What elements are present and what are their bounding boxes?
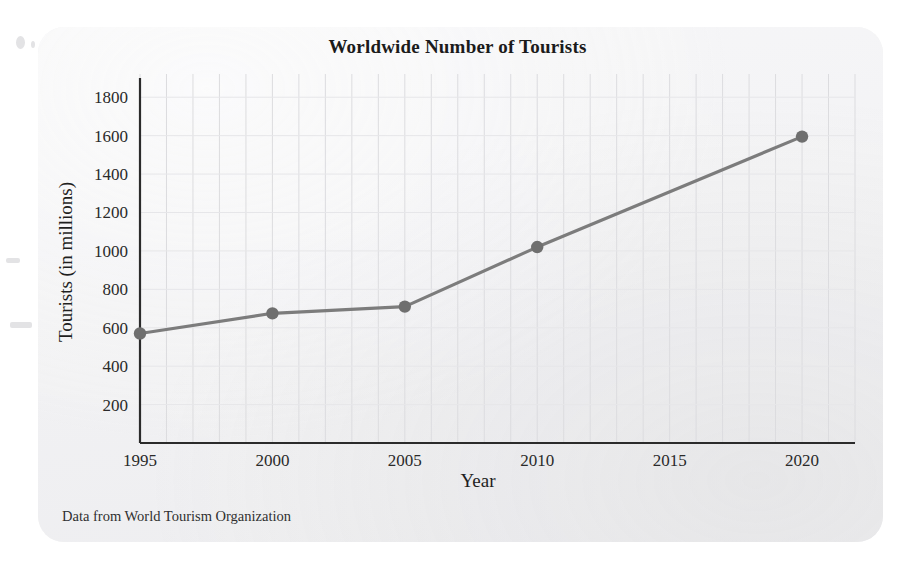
line-chart: 20040060080010001200140016001800 1995200… [0, 0, 915, 565]
y-tick-label: 1000 [94, 242, 128, 261]
tourists-trend-line [140, 137, 802, 334]
y-tick-label: 600 [103, 319, 129, 338]
data-point-marker [796, 130, 808, 142]
y-tick-label: 1600 [94, 127, 128, 146]
data-point-marker [531, 241, 543, 253]
data-point-marker [266, 307, 278, 319]
y-tick-label: 800 [103, 280, 129, 299]
data-point-markers [134, 130, 808, 339]
x-tick-label: 2010 [520, 451, 554, 470]
data-point-marker [399, 300, 411, 312]
x-tick-label: 2015 [653, 451, 687, 470]
x-tick-label: 2005 [388, 451, 422, 470]
y-tick-label: 200 [103, 396, 129, 415]
y-tick-label: 1200 [94, 203, 128, 222]
x-tick-label: 2020 [785, 451, 819, 470]
source-note: Data from World Tourism Organization [62, 508, 291, 525]
horizontal-gridlines [140, 97, 855, 404]
y-tick-label: 1800 [94, 88, 128, 107]
y-tick-label: 1400 [94, 165, 128, 184]
x-axis-tick-labels: 199520002005201020152020 [123, 451, 819, 470]
x-axis-title: Year [460, 470, 496, 491]
data-point-marker [134, 327, 146, 339]
axis-lines [140, 78, 855, 443]
x-tick-label: 1995 [123, 451, 157, 470]
y-axis-tick-labels: 20040060080010001200140016001800 [94, 88, 128, 414]
y-axis-title: Tourists (in millions) [55, 182, 77, 342]
y-tick-label: 400 [103, 357, 129, 376]
minor-vertical-gridlines [140, 74, 855, 443]
x-tick-label: 2000 [255, 451, 289, 470]
